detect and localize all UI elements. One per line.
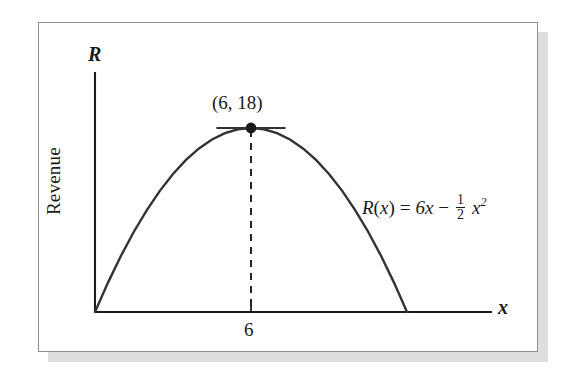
revenue-curve xyxy=(95,128,407,312)
equation-term-two-base: x xyxy=(472,198,480,217)
y-axis-title-label: Revenue xyxy=(44,147,63,215)
fraction-denominator: 2 xyxy=(456,207,465,222)
vertex-coordinate-label: (6, 18) xyxy=(212,93,263,112)
equation-minus-sign: − xyxy=(438,198,449,217)
equation-fraction-one-half: 12 xyxy=(456,193,465,223)
figure-root: R x Revenue (6, 18) 6 R(x)=6x−12x2 xyxy=(0,0,574,388)
y-axis-symbol-label: R xyxy=(88,44,101,64)
equation-close-paren: ) xyxy=(388,198,394,217)
equation-term-one: 6x xyxy=(415,198,433,217)
function-equation-label: R(x)=6x−12x2 xyxy=(362,193,487,223)
fraction-numerator: 1 xyxy=(456,193,465,207)
x-axis-tick-label-6: 6 xyxy=(244,320,254,339)
plot-canvas xyxy=(0,0,574,388)
equation-equals-sign: = xyxy=(400,198,411,217)
vertex-point-marker xyxy=(246,123,257,134)
equation-function-name: R xyxy=(362,198,374,217)
equation-term-two-exponent: 2 xyxy=(481,196,487,208)
equation-variable: x xyxy=(380,198,388,217)
x-axis-symbol-label: x xyxy=(498,297,508,317)
